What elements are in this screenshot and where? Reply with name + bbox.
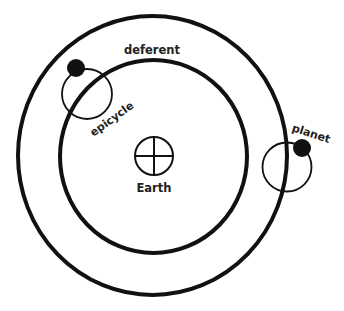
epicycle-label: epicycle	[88, 99, 137, 139]
deferent-label: deferent	[124, 43, 180, 57]
epicycle-circle-upper-left	[62, 69, 112, 119]
planet-dot-upper-left	[67, 59, 85, 77]
planet-dot-right	[293, 139, 311, 157]
earth-icon	[135, 137, 173, 175]
epicycle-diagram: deferent epicycle planet Earth	[0, 0, 344, 311]
earth-label: Earth	[137, 181, 172, 195]
